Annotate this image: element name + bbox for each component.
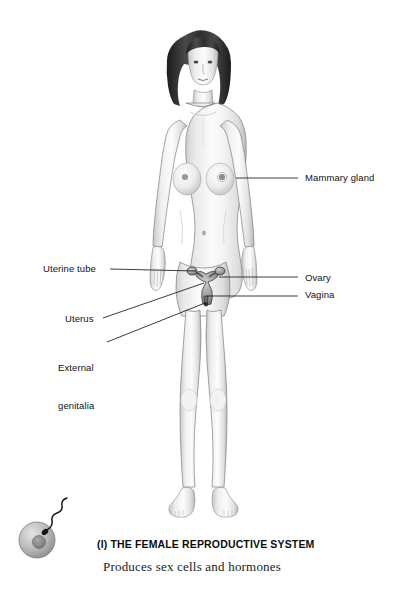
caption-title: (l) THE FEMALE REPRODUCTIVE SYSTEM: [97, 538, 314, 550]
foot-right: [212, 487, 238, 517]
label-uterus: Uterus: [65, 313, 94, 326]
label-external-genitalia-line2: genitalia: [58, 400, 94, 413]
eye-right: [208, 61, 213, 64]
label-ovary: Ovary: [305, 272, 331, 285]
knee-left: [181, 389, 197, 411]
nipple-left: [182, 174, 188, 180]
waist-shading-left: [180, 210, 183, 244]
navel: [202, 230, 206, 235]
hand-right: [242, 247, 257, 291]
label-external-genitalia-line1: External: [58, 362, 94, 375]
hand-left: [150, 247, 165, 291]
ovary-right: [215, 267, 225, 275]
knee-right: [210, 389, 226, 411]
ovum-nucleus: [33, 536, 46, 549]
label-uterine-tube: Uterine tube: [43, 263, 96, 276]
sperm-tail: [47, 498, 67, 530]
ovum-with-sperm-icon: [19, 498, 67, 558]
figure-root: Mammary gland Ovary Vagina Uterine tube …: [0, 0, 401, 598]
label-mammary-gland: Mammary gland: [305, 172, 374, 185]
caption-subtitle: Produces sex cells and hormones: [103, 559, 281, 575]
nipple-right: [219, 174, 225, 180]
female-body-illustration: [0, 0, 401, 598]
eye-left: [194, 61, 199, 64]
external-genitalia-marker: [204, 302, 208, 306]
label-external-genitalia: External genitalia: [58, 337, 94, 437]
label-vagina: Vagina: [305, 289, 334, 302]
foot-left: [169, 487, 195, 517]
